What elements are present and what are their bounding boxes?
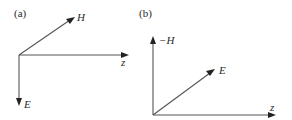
panel-a-label: (a) xyxy=(14,7,27,20)
panel-b-e-vector: E xyxy=(153,64,226,115)
panel-a-z-label: z xyxy=(120,56,126,68)
panel-b-minus-h-axis: −H xyxy=(150,34,175,115)
panel-b-minus-h-label: −H xyxy=(159,34,175,46)
panel-b-z-axis: z xyxy=(153,101,276,118)
panel-a-h-vector: H xyxy=(19,11,86,55)
panel-a: (a) H z E xyxy=(14,7,129,110)
panel-a-h-label: H xyxy=(76,11,86,23)
panel-a-z-axis: z xyxy=(19,52,129,68)
arrowhead-icon xyxy=(66,17,75,24)
panel-b-e-label: E xyxy=(218,64,226,76)
panel-a-e-label: E xyxy=(23,98,31,110)
panel-b: (b) −H E z xyxy=(139,7,276,118)
arrowhead-icon xyxy=(16,98,22,106)
panel-a-e-vector: E xyxy=(16,55,31,110)
arrowhead-icon xyxy=(150,36,156,44)
panel-b-z-label: z xyxy=(269,101,275,113)
em-field-diagram: (a) H z E (b) −H xyxy=(0,0,292,120)
panel-b-label: (b) xyxy=(139,7,152,20)
